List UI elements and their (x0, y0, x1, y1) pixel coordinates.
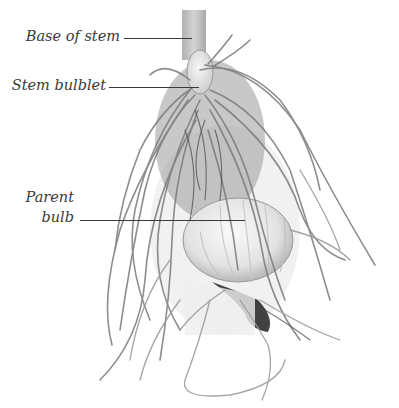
label-parent-bulb-line2: bulb (20, 209, 74, 226)
leader-line-parent-bulb (80, 220, 245, 221)
leader-line-base-of-stem (124, 38, 192, 39)
labeled-bulb-figure: Base of stem Stem bulblet Parent bulb (0, 0, 399, 408)
label-base-of-stem: Base of stem (24, 28, 120, 45)
label-stem-bulblet: Stem bulblet (6, 77, 106, 94)
leader-line-stem-bulblet (109, 87, 199, 88)
label-parent-bulb-line1: Parent (20, 189, 74, 206)
